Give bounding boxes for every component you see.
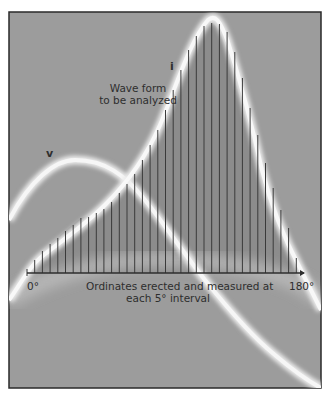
caption-line2: each 5° interval — [86, 292, 250, 304]
oscillogram-figure — [0, 0, 332, 399]
v-curve-label: v — [46, 148, 53, 160]
wave-form-label-line2: to be analyzed — [88, 94, 188, 106]
ordinates-caption: Ordinates erected and measured at each 5… — [86, 280, 250, 304]
x-axis-end-label: 180° — [289, 280, 314, 292]
wave-form-label-line1: Wave form — [88, 82, 188, 94]
x-axis-start-label: 0° — [27, 280, 39, 292]
caption-line1: Ordinates erected and measured at — [86, 280, 250, 292]
i-curve-label: i — [170, 61, 174, 73]
wave-form-label: Wave form to be analyzed — [88, 82, 188, 106]
